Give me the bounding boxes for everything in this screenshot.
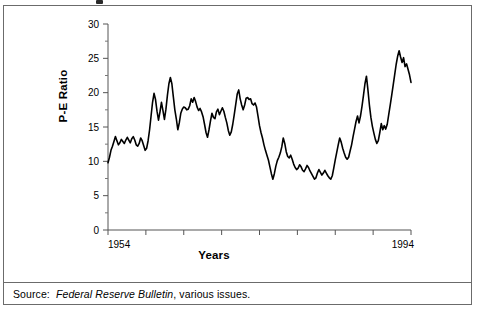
y-axis-title: P-E Ratio [57,51,69,141]
pe-ratio-line [108,51,411,179]
x-axis-title: Years [4,249,424,261]
figure-frame: 051015202530 19541994 P-E Ratio Years So… [3,5,472,305]
source-label: Source: [13,288,50,300]
axis-tick-labels: 051015202530 [88,19,100,236]
data-series-layer [108,51,411,179]
figure-screenshot: 051015202530 19541994 P-E Ratio Years So… [0,0,482,313]
y-tick-label: 0 [93,225,99,236]
y-tick-label: 10 [88,156,100,167]
y-tick-label: 5 [93,190,99,201]
y-tick-label: 20 [88,87,100,98]
source-note-bar: Source: Federal Reserve Bulletin, variou… [4,282,471,304]
chart-canvas: 051015202530 19541994 [4,6,473,283]
y-tick-label: 30 [88,19,100,30]
cropped-text-fragment [96,0,103,4]
source-note: Source: Federal Reserve Bulletin, variou… [4,288,250,300]
source-suffix: , various issues. [173,288,250,300]
y-tick-label: 25 [88,53,100,64]
source-publication: Federal Reserve Bulletin [56,288,173,300]
plot-pane: 051015202530 19541994 P-E Ratio Years [4,6,471,283]
y-tick-label: 15 [88,122,100,133]
pe-ratio-chart: 051015202530 19541994 P-E Ratio Years [4,6,473,283]
